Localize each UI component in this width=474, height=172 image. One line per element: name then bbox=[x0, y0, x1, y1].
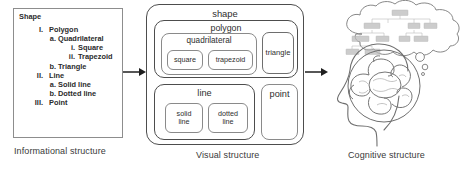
list-item-label: Point bbox=[49, 99, 67, 107]
box-dotted-line: dotted line bbox=[208, 103, 248, 133]
box-shape-label: shape bbox=[147, 8, 303, 19]
box-shape: shape polygon quadrilateral square trape… bbox=[146, 4, 304, 145]
box-polygon: polygon quadrilateral square trapezoid t… bbox=[154, 20, 298, 78]
box-quadrilateral: quadrilateral square trapezoid bbox=[161, 33, 257, 75]
head-profile-icon bbox=[338, 44, 408, 146]
cognitive-illustration bbox=[326, 0, 474, 148]
cognitive-structure-panel bbox=[326, 0, 474, 172]
informational-outline-box: Shape I. Polygon a. Quadrilateral i. Squ… bbox=[13, 8, 123, 138]
box-solid-line-label: solid line bbox=[166, 110, 202, 126]
caption-cognitive-structure: Cognitive structure bbox=[348, 150, 425, 160]
list-item-marker: i. bbox=[66, 44, 75, 52]
list-item: III. Point bbox=[19, 99, 120, 107]
thought-bubble-dot-medium bbox=[422, 64, 428, 70]
box-trapezoid: trapezoid bbox=[208, 50, 253, 70]
box-dotted-line-label: dotted line bbox=[209, 110, 247, 126]
caption-informational-structure: Informational structure bbox=[14, 146, 106, 156]
box-solid-line-label-row2: line bbox=[178, 117, 189, 126]
list-item-marker: II. bbox=[29, 72, 43, 80]
brain-outline-icon bbox=[348, 50, 420, 122]
list-item-marker: a. bbox=[49, 35, 56, 43]
box-triangle: triangle bbox=[262, 32, 294, 74]
right-arrow-icon bbox=[123, 62, 147, 82]
list-item: I. Polygon bbox=[19, 26, 120, 34]
list-item-marker: III. bbox=[29, 99, 43, 107]
list-item-label: Square bbox=[78, 44, 103, 52]
box-point-label: point bbox=[262, 89, 297, 99]
box-solid-line: solid line bbox=[165, 103, 203, 133]
box-dotted-line-label-row2: line bbox=[222, 117, 233, 126]
brain-icon bbox=[349, 56, 412, 114]
list-item-marker: ii. bbox=[66, 53, 75, 61]
list-item: b. Triangle bbox=[19, 63, 120, 71]
brain-texture bbox=[359, 75, 409, 105]
list-item: b. Dotted line bbox=[19, 90, 120, 98]
list-item-label: Solid line bbox=[58, 81, 91, 89]
box-polygon-label: polygon bbox=[155, 23, 297, 33]
list-item-label: Line bbox=[49, 72, 64, 80]
informational-outline-list: Shape I. Polygon a. Quadrilateral i. Squ… bbox=[19, 13, 120, 109]
list-item-label: Triangle bbox=[58, 63, 86, 71]
thought-bubble-dot-small bbox=[422, 73, 425, 76]
list-item: Shape bbox=[19, 13, 120, 21]
box-line: line solid line dotted line bbox=[154, 84, 255, 140]
box-square: square bbox=[167, 50, 203, 70]
list-item: a. Quadrilateral bbox=[19, 35, 120, 43]
box-line-label: line bbox=[155, 88, 254, 98]
list-item-label: Trapezoid bbox=[78, 53, 113, 61]
box-quadrilateral-label: quadrilateral bbox=[162, 36, 256, 45]
list-item: ii. Trapezoid bbox=[19, 53, 120, 61]
list-item: II. Line bbox=[19, 72, 120, 80]
box-square-label: square bbox=[168, 56, 202, 64]
list-item-label: Dotted line bbox=[58, 90, 96, 98]
figure-root: Shape I. Polygon a. Quadrilateral i. Squ… bbox=[0, 0, 474, 172]
list-item-marker: b. bbox=[49, 63, 56, 71]
visual-structure-panel: shape polygon quadrilateral square trape… bbox=[146, 4, 304, 145]
caption-visual-structure: Visual structure bbox=[196, 150, 259, 160]
list-item: i. Square bbox=[19, 44, 120, 52]
box-point: point bbox=[261, 84, 298, 140]
list-item: a. Solid line bbox=[19, 81, 120, 89]
list-item-label: Shape bbox=[19, 13, 41, 21]
informational-structure-panel: Shape I. Polygon a. Quadrilateral i. Squ… bbox=[0, 0, 140, 172]
thought-bubble-dot-large bbox=[416, 53, 425, 62]
box-triangle-label: triangle bbox=[263, 49, 293, 57]
list-item-marker: a. bbox=[49, 81, 56, 89]
list-item-label: Polygon bbox=[49, 26, 78, 34]
list-item-marker: I. bbox=[29, 26, 43, 34]
box-trapezoid-label: trapezoid bbox=[209, 56, 252, 64]
list-item-marker: b. bbox=[49, 90, 56, 98]
list-item-label: Quadrilateral bbox=[58, 35, 104, 43]
